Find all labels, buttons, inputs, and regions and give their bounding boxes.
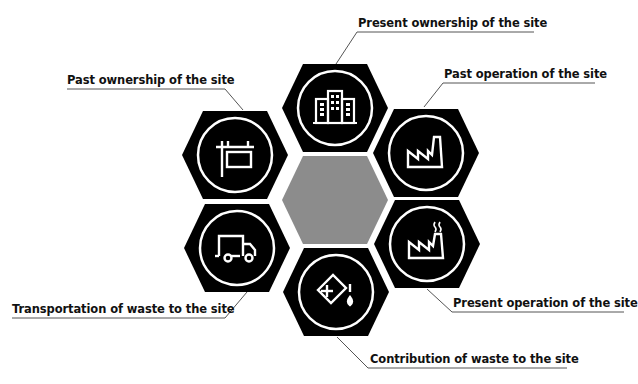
label-transportation-waste: Transportation of waste to the site (12, 302, 235, 316)
hex-transportation-waste[interactable] (184, 204, 290, 292)
hex-contribution-waste[interactable] (283, 248, 389, 336)
label-past-ownership: Past ownership of the site (67, 73, 235, 87)
label-present-operation: Present operation of the site (453, 296, 638, 310)
label-past-operation: Past operation of the site (444, 67, 607, 81)
label-present-ownership: Present ownership of the site (358, 16, 547, 30)
hex-present-operation[interactable] (374, 200, 480, 288)
hex-past-ownership[interactable] (182, 111, 288, 199)
hex-present-ownership[interactable] (282, 64, 388, 152)
label-contribution-waste: Contribution of waste to the site (370, 352, 579, 366)
center-hexagon (282, 156, 388, 244)
hex-past-operation[interactable] (373, 109, 479, 197)
